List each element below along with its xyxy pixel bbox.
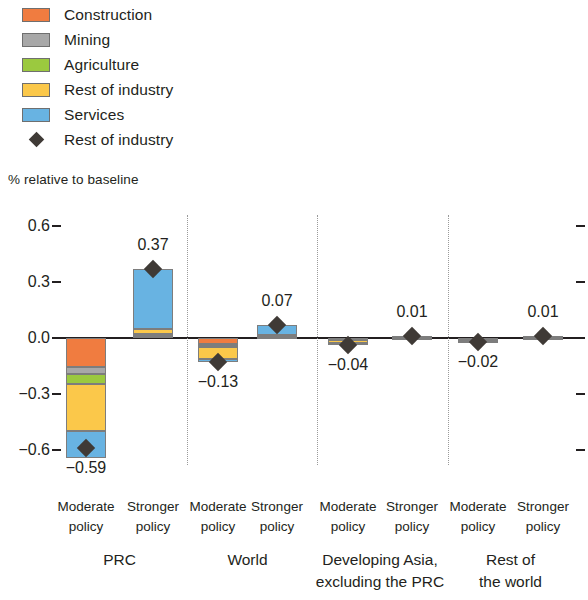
y-axis-tick-label: 0.3 xyxy=(4,273,50,291)
bar-value-label: −0.04 xyxy=(328,356,368,374)
policy-label-line: Moderate xyxy=(319,499,376,514)
y-axis-tick-mark xyxy=(52,449,61,451)
policy-label-line: policy xyxy=(395,519,430,534)
x-axis-group-label: PRC xyxy=(103,549,136,571)
x-axis-policy-label: Strongerpolicy xyxy=(127,497,179,536)
chart-plot-area: 0.60.30.0−0.3−0.6−0.59Moderatepolicy0.37… xyxy=(0,0,588,600)
policy-label-line: Stronger xyxy=(251,499,303,514)
y-axis-tick-mark-right xyxy=(576,281,585,283)
bar-segment xyxy=(66,384,106,432)
policy-label-line: policy xyxy=(260,519,295,534)
policy-label-line: Stronger xyxy=(127,499,179,514)
y-axis-tick-label: 0.6 xyxy=(4,217,50,235)
y-axis-tick-mark xyxy=(52,281,61,283)
policy-label-line: policy xyxy=(526,519,561,534)
y-axis-tick-mark-right xyxy=(576,225,585,227)
group-divider xyxy=(448,215,449,465)
bar-value-label: −0.02 xyxy=(458,353,498,371)
y-axis-tick-label: −0.3 xyxy=(4,385,50,403)
policy-label-line: policy xyxy=(69,519,104,534)
x-axis-group-label: World xyxy=(227,549,267,571)
x-axis-group-label: Developing Asia,excluding the PRC xyxy=(316,549,444,592)
group-label-line: the world xyxy=(479,573,542,590)
bar-value-label: −0.59 xyxy=(66,459,106,477)
y-axis-tick-mark xyxy=(52,393,61,395)
bar-value-label: 0.01 xyxy=(396,303,427,321)
y-axis-tick-mark-right xyxy=(576,393,585,395)
bar-value-label: −0.13 xyxy=(198,373,238,391)
x-axis-policy-label: Moderatepolicy xyxy=(449,497,506,536)
y-axis-tick-label: −0.6 xyxy=(4,441,50,459)
policy-label-line: policy xyxy=(461,519,496,534)
group-divider xyxy=(187,215,188,465)
group-label-line: Developing Asia, xyxy=(322,551,437,568)
bar-segment xyxy=(133,334,173,336)
y-axis-tick-label: 0.0 xyxy=(4,329,50,347)
bar-segment xyxy=(133,329,173,335)
policy-label-line: policy xyxy=(136,519,171,534)
bar-segment xyxy=(66,338,106,367)
policy-label-line: Moderate xyxy=(189,499,246,514)
bar-segment xyxy=(66,367,106,374)
x-axis-policy-label: Strongerpolicy xyxy=(386,497,438,536)
policy-label-line: Stronger xyxy=(517,499,569,514)
total-marker-diamond xyxy=(534,327,552,345)
x-axis-policy-label: Moderatepolicy xyxy=(189,497,246,536)
y-axis-tick-mark-right xyxy=(576,449,585,451)
x-axis-policy-label: Strongerpolicy xyxy=(251,497,303,536)
group-label-line: World xyxy=(227,551,267,568)
policy-label-line: Moderate xyxy=(57,499,114,514)
x-axis-policy-label: Strongerpolicy xyxy=(517,497,569,536)
x-axis-policy-label: Moderatepolicy xyxy=(319,497,376,536)
policy-label-line: Stronger xyxy=(386,499,438,514)
bar-value-label: 0.01 xyxy=(527,303,558,321)
bar-segment xyxy=(257,335,297,337)
group-divider xyxy=(317,215,318,465)
group-label-line: Rest of xyxy=(486,551,535,568)
policy-label-line: policy xyxy=(201,519,236,534)
policy-label-line: policy xyxy=(331,519,366,534)
bar-value-label: 0.07 xyxy=(261,292,292,310)
group-label-line: PRC xyxy=(103,551,136,568)
bar-segment xyxy=(66,374,106,383)
x-axis-policy-label: Moderatepolicy xyxy=(57,497,114,536)
y-axis-tick-mark xyxy=(52,225,61,227)
total-marker-diamond xyxy=(403,327,421,345)
bar-value-label: 0.37 xyxy=(137,236,168,254)
group-label-line: excluding the PRC xyxy=(316,573,444,590)
total-marker-diamond xyxy=(469,333,487,351)
policy-label-line: Moderate xyxy=(449,499,506,514)
x-axis-group-label: Rest ofthe world xyxy=(479,549,542,592)
